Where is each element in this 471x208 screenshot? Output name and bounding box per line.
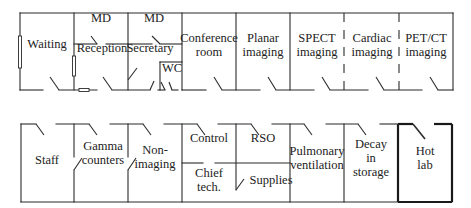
door-cardiac xyxy=(376,77,384,90)
door-gamma-side xyxy=(74,158,82,170)
room-label-line: ventilation xyxy=(290,158,345,172)
room-label-line: MD xyxy=(91,11,111,25)
door-secretary xyxy=(150,81,154,90)
door-spect xyxy=(322,77,330,90)
room-label-line: imaging xyxy=(243,45,284,59)
door-pulmonary xyxy=(304,124,312,135)
room-label-supplies: Supplies xyxy=(249,173,292,187)
door-decay xyxy=(358,124,366,135)
room-label-line: Gamma xyxy=(82,139,124,153)
room-label-rso: RSO xyxy=(251,131,275,145)
room-label-planar-imaging: Planarimaging xyxy=(243,31,284,59)
door-waiting xyxy=(50,77,59,90)
room-label-line: counters xyxy=(82,153,124,167)
room-label-line: tech. xyxy=(195,180,223,194)
door-staff xyxy=(36,124,44,135)
window-waiting xyxy=(19,36,22,68)
room-label-line: WC xyxy=(162,61,182,75)
room-label-line: Planar xyxy=(243,31,284,45)
room-label-decay-in-storage: Decayinstorage xyxy=(353,137,389,179)
room-label-md-1: MD xyxy=(91,11,111,25)
room-label-line: MD xyxy=(144,11,164,25)
room-label-staff: Staff xyxy=(35,153,59,167)
room-label-conference-room: Conferenceroom xyxy=(180,31,238,59)
door-gamma xyxy=(89,124,97,135)
room-label-cardiac-imaging: Cardiacimaging xyxy=(352,31,393,59)
room-label-hot-lab: Hotlab xyxy=(416,144,435,172)
door-planar xyxy=(268,77,276,90)
room-label-non-imaging: Non-imaging xyxy=(135,143,176,171)
room-label-wc: WC xyxy=(162,61,182,75)
room-label-line: imaging xyxy=(297,45,338,59)
window-reception xyxy=(73,56,76,76)
door-supplies xyxy=(236,179,244,190)
door-reception xyxy=(103,77,112,90)
room-label-line: Pulmonary xyxy=(290,144,345,158)
room-label-line: PET/CT xyxy=(405,31,447,45)
room-label-line: Non- xyxy=(135,143,176,157)
room-label-line: Cardiac xyxy=(352,31,393,45)
room-label-secretary: Secretary xyxy=(126,41,173,55)
room-label-line: Conference xyxy=(180,31,238,45)
room-label-pet-ct-imaging: PET/CTimaging xyxy=(405,31,447,59)
room-label-line: Supplies xyxy=(249,173,292,187)
door-wc-left xyxy=(161,82,165,90)
room-label-waiting: Waiting xyxy=(27,37,66,51)
room-label-line: Decay xyxy=(353,137,389,151)
room-label-control: Control xyxy=(190,131,228,145)
room-label-line: Staff xyxy=(35,153,59,167)
window-corridor xyxy=(79,89,89,92)
door-non-imaging xyxy=(143,124,151,135)
room-label-line: room xyxy=(180,45,238,59)
room-label-line: imaging xyxy=(135,157,176,171)
door-pet-ct xyxy=(430,77,438,90)
room-label-reception: Reception xyxy=(77,41,128,55)
room-label-line: imaging xyxy=(352,45,393,59)
door-hot-lab xyxy=(413,124,425,139)
room-label-line: Secretary xyxy=(126,41,173,55)
room-label-line: RSO xyxy=(251,131,275,145)
room-label-line: lab xyxy=(416,158,435,172)
room-label-spect-imaging: SPECTimaging xyxy=(297,31,338,59)
door-conference xyxy=(214,77,222,90)
room-label-line: imaging xyxy=(405,45,447,59)
room-label-chief-tech: Chieftech. xyxy=(195,166,223,194)
room-label-line: storage xyxy=(353,165,389,179)
room-label-line: Hot xyxy=(416,144,435,158)
room-label-line: Waiting xyxy=(27,37,66,51)
door-wc xyxy=(169,82,172,90)
room-label-line: SPECT xyxy=(297,31,338,45)
room-label-md-2: MD xyxy=(144,11,164,25)
room-label-line: Control xyxy=(190,131,228,145)
room-label-line: Reception xyxy=(77,41,128,55)
room-label-gamma-counters: Gammacounters xyxy=(82,139,124,167)
door-secretary-side xyxy=(128,68,137,80)
room-label-line: in xyxy=(353,151,389,165)
room-label-pulmonary-ventilation: Pulmonaryventilation xyxy=(290,144,345,172)
room-label-line: Chief xyxy=(195,166,223,180)
